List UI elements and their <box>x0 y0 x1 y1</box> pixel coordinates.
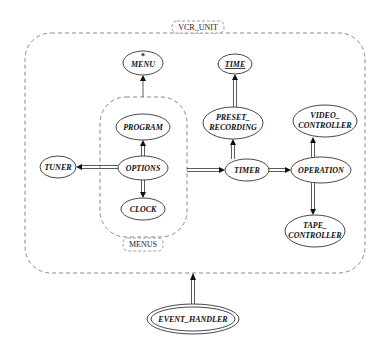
edge-menus-to-timer <box>187 167 225 173</box>
node-tape-controller[interactable]: TAPE_ CONTROLLER <box>285 215 345 247</box>
edge-timer-to-preset-recording <box>230 139 236 159</box>
edge-options-to-tuner <box>76 164 118 170</box>
node-clock-label: CLOCK <box>130 205 157 214</box>
node-tape-controller-label-line1: TAPE_ <box>303 221 327 230</box>
node-program[interactable]: PROGRAM <box>116 114 170 140</box>
node-preset-recording-label-line2: RECORDING <box>208 123 257 132</box>
node-menu-label: MENU <box>130 60 156 69</box>
edge-menus-to-menu <box>140 75 146 97</box>
node-program-label: PROGRAM <box>123 123 163 132</box>
node-preset-recording-label-line1: PRESET_ <box>216 113 250 122</box>
diagram-canvas: VCR_UNIT MENUS <box>0 0 388 355</box>
node-operation-label: OPERATION <box>298 166 345 175</box>
node-options[interactable]: OPTIONS <box>118 156 168 180</box>
node-operation[interactable]: OPERATION <box>291 157 351 183</box>
node-menu[interactable]: * MENU <box>123 51 163 75</box>
node-video-controller-label-line2: CONTROLLER <box>298 121 352 130</box>
node-options-label: OPTIONS <box>126 164 161 173</box>
node-tape-controller-label-line2: CONTROLLER <box>288 231 342 240</box>
edge-preset-recording-to-time <box>232 74 238 107</box>
node-timer-label: TIMER <box>234 166 260 175</box>
cluster-menus-label: MENUS <box>129 240 157 249</box>
node-clock[interactable]: CLOCK <box>121 198 165 220</box>
edge-event-handler-to-vcr-unit <box>190 273 196 305</box>
cluster-vcr-unit-label: VCR_UNIT <box>178 23 218 32</box>
edge-timer-to-operation <box>269 167 291 173</box>
node-preset-recording[interactable]: PRESET_ RECORDING <box>203 107 263 139</box>
node-tuner-label: TUNER <box>44 163 72 172</box>
node-timer[interactable]: TIMER <box>225 159 269 181</box>
node-event-handler[interactable]: EVENT_HANDLER <box>147 304 239 334</box>
edge-operation-to-tape-controller <box>310 183 316 215</box>
edge-options-to-program <box>140 140 146 156</box>
node-event-handler-label: EVENT_HANDLER <box>157 315 228 324</box>
edge-operation-to-video-controller <box>310 137 316 157</box>
edge-options-to-clock <box>140 180 146 198</box>
node-video-controller-label-line1: VIDEO_ <box>310 111 339 120</box>
edges <box>76 74 316 305</box>
node-time-label: TIME <box>225 60 245 69</box>
node-time[interactable]: TIME <box>218 54 252 74</box>
node-video-controller[interactable]: VIDEO_ CONTROLLER <box>293 105 357 137</box>
node-tuner[interactable]: TUNER <box>40 156 76 178</box>
